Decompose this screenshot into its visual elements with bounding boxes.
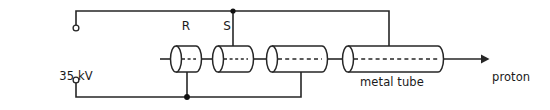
supply-voltage-text: 35 kV (0, 69, 152, 83)
supply-label: 35 kV alternating supply (0, 41, 152, 110)
drift-tube-r (171, 46, 202, 72)
junction-dot-r-bottom (184, 94, 190, 100)
tube-r-face (171, 46, 182, 72)
tube-r-label: R (178, 19, 194, 33)
tube-s-label: S (219, 19, 235, 33)
drift-tube-metal (343, 46, 444, 72)
proton-beam-line1: proton (492, 70, 548, 84)
drift-tube-third (267, 46, 328, 72)
beam-arrow-head (481, 54, 490, 63)
metal-tube-label: metal tube (341, 75, 443, 89)
tube-s-face (213, 46, 224, 72)
linear-accelerator-diagram: 35 kV alternating supply R S metal tube … (0, 0, 550, 110)
tube-metal-face (343, 46, 354, 72)
drift-tube-s (213, 46, 254, 72)
top-terminal-ring (73, 25, 79, 31)
tube-third-face (267, 46, 278, 72)
proton-beam-label: proton beam (492, 42, 548, 110)
junction-dot-s-top (230, 8, 235, 13)
